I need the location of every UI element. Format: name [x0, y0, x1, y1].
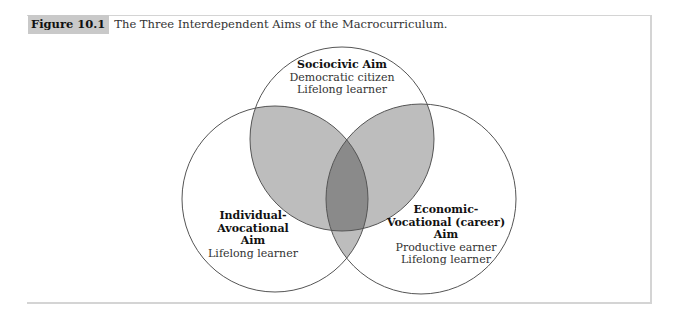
economic-item: Lifelong learner: [387, 254, 505, 267]
economic-title: Aim: [387, 229, 505, 242]
label-sociocivic: Sociocivic Aim Democratic citizen Lifelo…: [290, 59, 395, 97]
sociocivic-item: Lifelong learner: [290, 84, 395, 97]
label-economic-vocational: Economic- Vocational (career) Aim Produc…: [387, 204, 505, 267]
sociocivic-title: Sociocivic Aim: [290, 59, 395, 72]
venn-diagram: [0, 0, 680, 319]
individual-title: Aim: [208, 235, 298, 248]
economic-title: Economic-: [387, 204, 505, 217]
label-individual-avocational: Individual- Avocational Aim Lifelong lea…: [208, 210, 298, 260]
individual-title: Individual-: [208, 210, 298, 223]
individual-item: Lifelong learner: [208, 248, 298, 261]
